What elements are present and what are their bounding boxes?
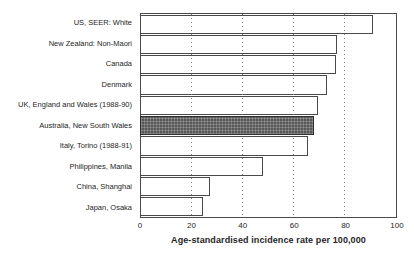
x-tick-label: 60	[290, 221, 299, 230]
bar	[140, 136, 308, 155]
bar	[140, 157, 263, 176]
x-tick-label: 80	[341, 221, 350, 230]
category-label: US, SEER: White	[0, 13, 132, 34]
plot-area	[140, 13, 397, 218]
category-label: Australia, New South Wales	[0, 116, 132, 137]
category-label: Philippines, Manila	[0, 157, 132, 178]
bar	[140, 96, 318, 115]
bar	[140, 75, 327, 94]
x-axis-tick-labels: 020406080100	[140, 221, 397, 231]
x-tick-label: 0	[138, 221, 142, 230]
category-label: Canada	[0, 54, 132, 75]
gridline	[344, 14, 345, 217]
category-label: Denmark	[0, 75, 132, 96]
category-label: UK, England and Wales (1988-90)	[0, 95, 132, 116]
bar	[140, 35, 337, 54]
bar-highlighted	[140, 116, 314, 135]
category-label: China, Shanghai	[0, 177, 132, 198]
x-tick-label: 40	[238, 221, 247, 230]
category-labels: US, SEER: WhiteNew Zealand: Non-MaoriCan…	[0, 13, 136, 218]
x-axis-title: Age-standardised incidence rate per 100,…	[140, 235, 397, 245]
x-tick-label: 100	[390, 221, 403, 230]
x-tick-label: 20	[187, 221, 196, 230]
chart-figure: US, SEER: WhiteNew Zealand: Non-MaoriCan…	[0, 0, 414, 257]
category-label: New Zealand: Non-Maori	[0, 34, 132, 55]
bar	[140, 177, 210, 196]
category-label: Japan, Osaka	[0, 198, 132, 219]
category-label: Italy, Torino (1988-91)	[0, 136, 132, 157]
bar	[140, 197, 203, 216]
bar	[140, 55, 336, 74]
bar	[140, 15, 373, 34]
